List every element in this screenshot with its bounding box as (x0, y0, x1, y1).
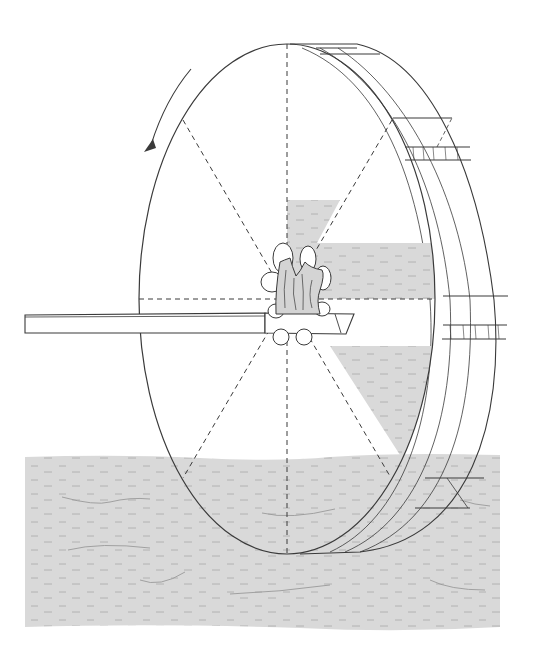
rotation-arrow-icon (144, 69, 191, 152)
water-body (25, 454, 500, 630)
water-wheel-figure: Water wheel illustration (0, 0, 536, 651)
water-wheel-illustration (0, 0, 536, 651)
